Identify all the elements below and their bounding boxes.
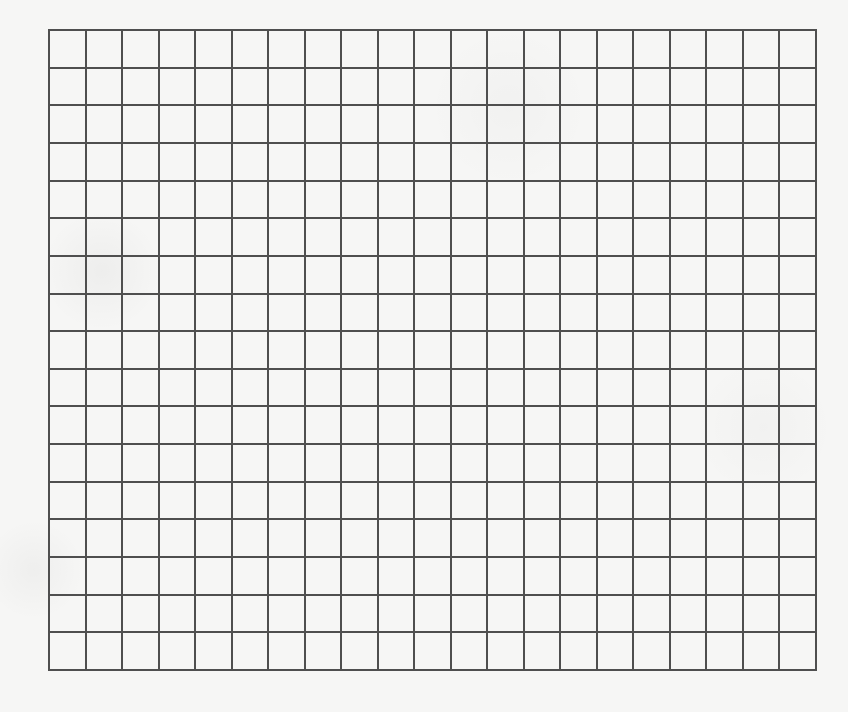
grid-cell bbox=[559, 142, 596, 180]
grid-cell bbox=[377, 481, 414, 519]
grid-cell bbox=[596, 368, 633, 406]
grid-cell bbox=[669, 104, 706, 142]
grid-cell bbox=[669, 594, 706, 632]
grid-cell bbox=[231, 217, 268, 255]
grid-cell bbox=[559, 631, 596, 669]
grid-cell bbox=[742, 142, 779, 180]
grid-cell bbox=[158, 180, 195, 218]
grid-cell bbox=[450, 255, 487, 293]
grid-cell bbox=[632, 368, 669, 406]
grid-cell bbox=[413, 142, 450, 180]
grid-cell bbox=[304, 142, 341, 180]
grid-cell bbox=[267, 255, 304, 293]
grid-cell bbox=[48, 293, 85, 331]
grid-cell bbox=[194, 481, 231, 519]
grid-cell bbox=[85, 67, 122, 105]
grid-cell bbox=[486, 443, 523, 481]
grid-cell bbox=[340, 518, 377, 556]
grid-cell bbox=[231, 368, 268, 406]
grid-cell bbox=[340, 330, 377, 368]
grid-cell bbox=[523, 631, 560, 669]
grid-cell bbox=[559, 594, 596, 632]
grid-cell bbox=[158, 29, 195, 67]
grid-cell bbox=[523, 368, 560, 406]
grid-cell bbox=[377, 405, 414, 443]
grid-cell bbox=[413, 255, 450, 293]
grid-cell bbox=[194, 594, 231, 632]
grid-cell bbox=[340, 405, 377, 443]
grid-cell bbox=[669, 368, 706, 406]
grid-cell bbox=[742, 518, 779, 556]
grid-cell bbox=[413, 29, 450, 67]
grid-cell bbox=[632, 330, 669, 368]
grid-cell bbox=[194, 180, 231, 218]
grid-cell bbox=[194, 104, 231, 142]
grid-cell bbox=[121, 67, 158, 105]
grid-cell bbox=[596, 631, 633, 669]
grid-cell bbox=[559, 180, 596, 218]
grid-cell bbox=[742, 368, 779, 406]
grid-cell bbox=[267, 405, 304, 443]
grid-cell bbox=[486, 556, 523, 594]
grid-cell bbox=[85, 217, 122, 255]
grid-cell bbox=[158, 368, 195, 406]
grid-cell bbox=[450, 481, 487, 519]
grid-cell bbox=[705, 405, 742, 443]
grid-cell bbox=[48, 481, 85, 519]
grid-cell bbox=[559, 481, 596, 519]
grid-cell bbox=[559, 518, 596, 556]
grid-cell bbox=[742, 556, 779, 594]
grid-cell bbox=[231, 330, 268, 368]
grid-cell bbox=[632, 443, 669, 481]
grid-cell bbox=[304, 594, 341, 632]
grid-cell bbox=[486, 481, 523, 519]
grid-cell bbox=[413, 104, 450, 142]
grid-cell bbox=[304, 330, 341, 368]
grid-cell bbox=[632, 481, 669, 519]
grid-cell bbox=[194, 67, 231, 105]
grid-cell bbox=[559, 293, 596, 331]
grid-cell bbox=[669, 217, 706, 255]
grid-cell bbox=[742, 104, 779, 142]
grid-cell bbox=[778, 631, 815, 669]
grid-cell bbox=[194, 330, 231, 368]
grid-cell bbox=[377, 255, 414, 293]
grid-cell bbox=[632, 594, 669, 632]
grid-cell bbox=[85, 556, 122, 594]
grid-cell bbox=[377, 104, 414, 142]
grid-cell bbox=[121, 180, 158, 218]
grid-cell bbox=[158, 594, 195, 632]
grid-cell bbox=[596, 255, 633, 293]
grid-cell bbox=[304, 518, 341, 556]
grid-cell bbox=[778, 518, 815, 556]
grid-cell bbox=[85, 594, 122, 632]
grid-cell bbox=[486, 142, 523, 180]
grid-cell bbox=[267, 556, 304, 594]
grid-cell bbox=[413, 518, 450, 556]
grid-cell bbox=[48, 518, 85, 556]
grid-cell bbox=[231, 631, 268, 669]
grid-cell bbox=[158, 217, 195, 255]
grid-cell bbox=[267, 67, 304, 105]
grid-cell bbox=[413, 405, 450, 443]
grid-cell bbox=[158, 104, 195, 142]
grid-cell bbox=[669, 330, 706, 368]
grid-cell bbox=[158, 255, 195, 293]
grid-cell bbox=[231, 29, 268, 67]
grid-cell bbox=[523, 330, 560, 368]
grid-cell bbox=[304, 481, 341, 519]
grid-cell bbox=[450, 443, 487, 481]
grid-cell bbox=[377, 217, 414, 255]
grid-cell bbox=[705, 330, 742, 368]
grid-cell bbox=[48, 594, 85, 632]
grid-cell bbox=[778, 481, 815, 519]
grid-cell bbox=[304, 631, 341, 669]
grid-cell bbox=[194, 255, 231, 293]
grid-cell bbox=[85, 518, 122, 556]
grid-cell bbox=[231, 481, 268, 519]
grid-cell bbox=[596, 405, 633, 443]
grid-cell bbox=[632, 142, 669, 180]
grid-cell bbox=[523, 405, 560, 443]
grid-cell bbox=[48, 330, 85, 368]
grid-cell bbox=[267, 631, 304, 669]
